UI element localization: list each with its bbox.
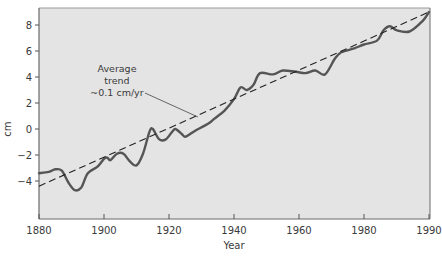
y-axis-title: cm	[2, 121, 13, 136]
x-tick-label: 1880	[26, 225, 51, 236]
plot-area	[39, 8, 430, 219]
y-tick-label: 6	[26, 46, 32, 57]
y-tick-label: 2	[26, 98, 32, 109]
x-tick-label: 1990	[416, 225, 441, 236]
x-tick-label: 1900	[91, 225, 116, 236]
y-tick-label: 4	[26, 72, 32, 83]
y-tick-label: −4	[17, 176, 32, 187]
x-tick-label: 1960	[286, 225, 311, 236]
annotation-line-1: Average	[97, 63, 136, 74]
y-axis: 86420−2−4	[17, 20, 39, 187]
x-tick-label: 1920	[156, 225, 181, 236]
y-tick-label: −2	[17, 150, 32, 161]
x-tick-label: 1940	[221, 225, 246, 236]
y-tick-label: 0	[26, 124, 32, 135]
y-tick-label: 8	[26, 20, 32, 31]
x-axis-title: Year	[222, 240, 245, 251]
annotation-line-2: trend	[104, 75, 129, 86]
x-tick-label: 1980	[351, 225, 376, 236]
annotation-line-3: ~0.1 cm/yr	[90, 87, 143, 98]
sea-level-chart: 86420−2−4 1880190019201940196019801990 A…	[0, 0, 442, 262]
